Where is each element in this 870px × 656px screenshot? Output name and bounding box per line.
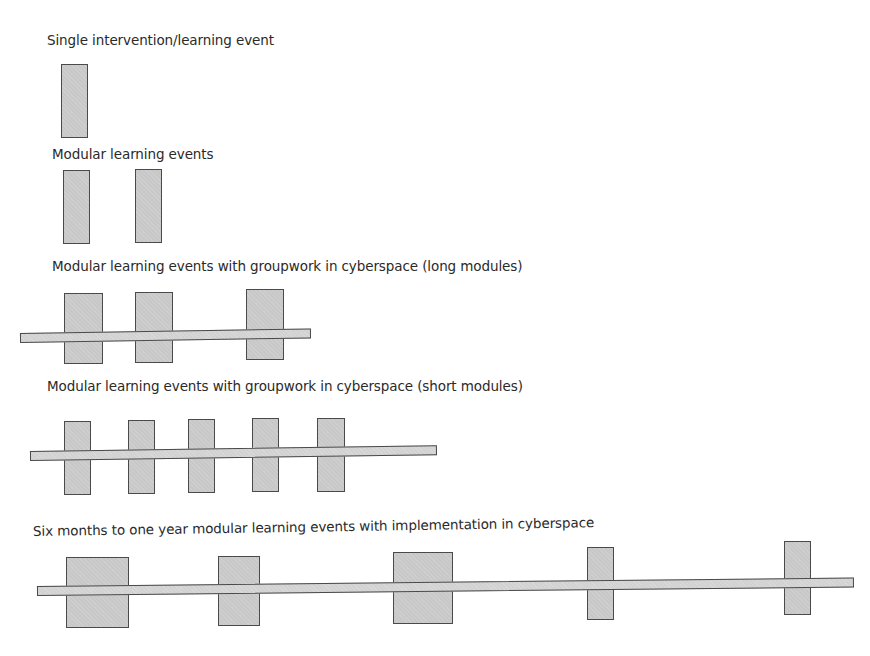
section-label-single: Single intervention/learning event [47,32,274,48]
section-label-short-modules: Modular learning events with groupwork i… [47,378,523,394]
learning-event-block [61,64,88,138]
section-label-modular: Modular learning events [52,146,213,162]
learning-event-block [63,170,90,244]
section-label-six-months-to-one-year: Six months to one year modular learning … [33,514,594,539]
learning-event-block [135,292,173,363]
learning-event-block [135,169,162,243]
section-label-long-modules: Modular learning events with groupwork i… [52,258,522,274]
learning-event-block [64,293,103,364]
learning-event-block [246,289,284,360]
